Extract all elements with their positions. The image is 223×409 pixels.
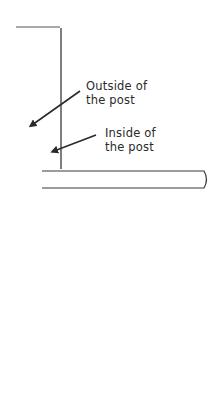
label-inside-of-post: Inside of the post: [105, 126, 156, 154]
post-diagram: [0, 0, 223, 409]
horizontal-rail: [42, 171, 207, 188]
label-inside-line2: the post: [105, 140, 156, 154]
arrow-inside-icon: [54, 135, 96, 151]
arrow-outside-icon: [32, 91, 80, 125]
label-outside-of-post: Outside of the post: [86, 79, 147, 107]
label-inside-line1: Inside of: [105, 126, 156, 140]
label-outside-line2: the post: [86, 93, 147, 107]
label-outside-line1: Outside of: [86, 79, 147, 93]
